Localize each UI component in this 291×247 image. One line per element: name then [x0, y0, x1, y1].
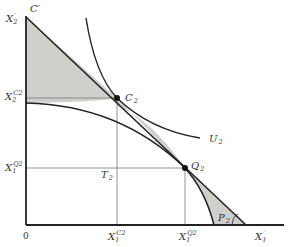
tick-x-c2: X1C2 — [107, 229, 125, 244]
trade-diagram: X2′ C′ X2C2 X1Q2 0 X1C2 X1Q2 X1′ C2 Q2 T… — [0, 0, 291, 247]
y-axis-top-label: X2′ — [5, 12, 17, 26]
price-line — [26, 17, 246, 225]
x-axis-right-label: X1′ — [254, 230, 266, 244]
label-q2: Q2 — [191, 160, 204, 173]
consumption-line-label: C′ — [30, 3, 41, 14]
point-c2 — [114, 95, 120, 101]
tick-x-q2: X1Q2 — [178, 229, 197, 244]
label-c2: C2 — [125, 92, 138, 105]
indifference-curve-u2 — [86, 18, 200, 138]
point-q2 — [182, 165, 188, 171]
tick-y-c2: X2C2 — [4, 89, 22, 104]
origin-label: 0 — [23, 231, 29, 241]
label-u2: U2 — [209, 133, 223, 146]
production-frontier-curve — [26, 103, 214, 225]
tick-y-q2: X1Q2 — [4, 160, 23, 175]
label-t2: T2 — [101, 169, 113, 182]
